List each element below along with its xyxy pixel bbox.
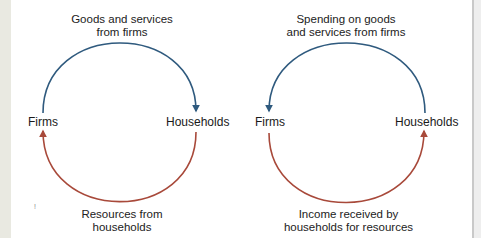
stray-mark: ! [34, 203, 36, 210]
left-firms-node: Firms [28, 115, 58, 129]
right-firms-node: Firms [255, 115, 285, 129]
right-top-arc-spending-arrow [269, 43, 425, 113]
right-top-label-line1: Spending on goods [276, 13, 416, 26]
left-bottom-label: Resources from households [62, 208, 182, 234]
left-bottom-arc-resources-arrow [43, 131, 196, 202]
right-households-node: Households [395, 115, 458, 129]
left-bottom-label-line1: Resources from [62, 208, 182, 221]
right-top-label: Spending on goods and services from firm… [276, 13, 416, 39]
left-households-node: Households [166, 115, 229, 129]
right-bottom-arc-income-arrow [269, 131, 424, 203]
left-top-label: Goods and services from firms [62, 13, 182, 39]
left-bottom-label-line2: households [62, 221, 182, 234]
circular-flow-figure: Goods and services from firms Firms Hous… [0, 0, 481, 238]
left-top-arc-goods-arrow [43, 43, 196, 113]
right-bottom-label: Income received by households for resour… [276, 208, 421, 234]
right-bottom-label-line1: Income received by [276, 208, 421, 221]
left-top-label-line2: from firms [62, 26, 182, 39]
right-top-label-line2: and services from firms [276, 26, 416, 39]
right-bottom-label-line2: households for resources [276, 221, 421, 234]
left-top-label-line1: Goods and services [62, 13, 182, 26]
